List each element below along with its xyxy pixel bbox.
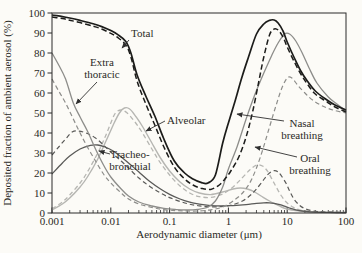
annotation-alveolar: Alveolar bbox=[167, 114, 206, 126]
y-axis-title: Deposited fraction of ambient aerosol (%… bbox=[1, 20, 14, 206]
x-tick-label: 0.1 bbox=[163, 215, 177, 227]
y-tick-label: 30 bbox=[34, 147, 46, 159]
aerosol-deposition-figure: 0.0010.010.11101000102030405060708090100… bbox=[0, 0, 362, 253]
y-tick-label: 60 bbox=[34, 87, 46, 99]
y-tick-label: 20 bbox=[34, 167, 46, 179]
deposition-chart: 0.0010.010.11101000102030405060708090100… bbox=[0, 0, 362, 253]
x-tick-label: 100 bbox=[338, 215, 355, 227]
y-tick-label: 10 bbox=[34, 187, 46, 199]
annotation-nasal-breathing-line: Nasal bbox=[289, 117, 314, 129]
y-tick-label: 90 bbox=[34, 27, 46, 39]
annotation-extra-thoracic-line: Extra bbox=[90, 56, 114, 68]
annotation-total: Total bbox=[131, 27, 153, 39]
y-tick-label: 100 bbox=[29, 7, 46, 19]
annotation-alveolar-line: Alveolar bbox=[167, 114, 206, 126]
annotation-nasal-breathing-line: breathing bbox=[281, 129, 323, 141]
x-tick-label: 0.01 bbox=[101, 215, 120, 227]
annotation-oral-breathing-line: breathing bbox=[289, 164, 331, 176]
annotation-total-line: Total bbox=[131, 27, 153, 39]
x-tick-label: 10 bbox=[282, 215, 294, 227]
x-tick-label: 1 bbox=[226, 215, 232, 227]
annotation-tracheo-bronchial-line: Tracheo- bbox=[110, 148, 150, 160]
y-tick-label: 80 bbox=[34, 47, 46, 59]
annotation-oral-breathing-line: Oral bbox=[300, 152, 320, 164]
y-tick-label: 70 bbox=[34, 67, 46, 79]
y-tick-label: 40 bbox=[34, 127, 46, 139]
annotation-tracheo-bronchial: Tracheo-bronchial bbox=[109, 148, 151, 172]
x-axis-title: Aerodynamic diameter (μm) bbox=[136, 228, 262, 241]
y-tick-label: 0 bbox=[40, 207, 46, 219]
annotation-extra-thoracic-line: thoracic bbox=[84, 68, 120, 80]
y-tick-label: 50 bbox=[34, 107, 46, 119]
annotation-tracheo-bronchial-line: bronchial bbox=[109, 160, 151, 172]
